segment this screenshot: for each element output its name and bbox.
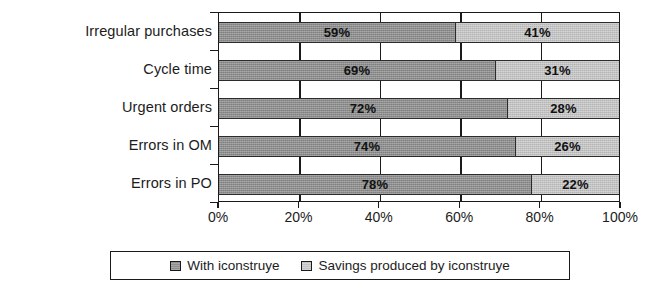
bar-segment-savings: 41%: [455, 22, 619, 43]
x-axis-tick: [217, 202, 218, 208]
category-label: Cycle time: [8, 61, 212, 77]
bar-segment-savings: 28%: [507, 98, 619, 119]
x-axis-tick-label: 0%: [208, 209, 228, 225]
x-axis-tick-label: 100%: [602, 209, 638, 225]
bar-segment-with-iconstruye: 78%: [219, 174, 531, 195]
category-label: Urgent orders: [8, 99, 212, 115]
legend-label: With iconstruye: [187, 258, 279, 273]
x-axis-tick-label: 60%: [445, 209, 473, 225]
bar-value-label: 26%: [554, 140, 581, 153]
x-axis-tick: [378, 202, 379, 208]
plot-area: 59%41%69%31%72%28%74%26%78%22%: [218, 12, 620, 202]
legend-swatch-with-iconstruye: [170, 261, 181, 271]
y-axis-tick: [210, 126, 218, 127]
x-axis-tick-label: 40%: [365, 209, 393, 225]
bar-value-label: 31%: [544, 64, 571, 77]
bar-row: 74%26%: [219, 136, 619, 157]
chart-legend: With iconstruyeSavings produced by icons…: [110, 251, 570, 280]
bar-value-label: 72%: [350, 102, 377, 115]
category-axis-labels: Irregular purchasesCycle timeUrgent orde…: [8, 12, 216, 202]
x-axis-tick-label: 80%: [526, 209, 554, 225]
category-label: Irregular purchases: [8, 23, 212, 39]
y-axis-tick: [210, 12, 218, 13]
bar-value-label: 41%: [524, 26, 551, 39]
bar-value-label: 22%: [562, 178, 589, 191]
category-label: Errors in OM: [8, 137, 212, 153]
bar-row: 78%22%: [219, 174, 619, 195]
bar-segment-savings: 31%: [495, 60, 619, 81]
bar-value-label: 74%: [354, 140, 381, 153]
bar-segment-with-iconstruye: 72%: [219, 98, 507, 119]
bar-row: 72%28%: [219, 98, 619, 119]
bar-segment-savings: 26%: [515, 136, 619, 157]
stacked-bar-chart: Irregular purchasesCycle timeUrgent orde…: [0, 0, 672, 294]
bar-row: 69%31%: [219, 60, 619, 81]
legend-item: Savings produced by iconstruye: [301, 258, 509, 273]
bar-segment-savings: 22%: [531, 174, 619, 195]
legend-item: With iconstruye: [170, 258, 279, 273]
y-axis-tick: [210, 164, 218, 165]
y-axis-tick: [210, 88, 218, 89]
legend-swatch-savings: [301, 261, 312, 271]
bar-value-label: 28%: [550, 102, 577, 115]
x-axis-tick: [539, 202, 540, 208]
legend-label: Savings produced by iconstruye: [318, 258, 509, 273]
category-label: Errors in PO: [8, 175, 212, 191]
x-axis-tick: [298, 202, 299, 208]
bar-value-label: 78%: [362, 178, 389, 191]
bar-value-label: 59%: [324, 26, 351, 39]
x-axis-tick-label: 20%: [284, 209, 312, 225]
x-axis-tick: [459, 202, 460, 208]
bar-value-label: 69%: [344, 64, 371, 77]
bar-segment-with-iconstruye: 74%: [219, 136, 515, 157]
bar-row: 59%41%: [219, 22, 619, 43]
bar-segment-with-iconstruye: 69%: [219, 60, 495, 81]
x-axis-line: [218, 201, 620, 202]
bar-segment-with-iconstruye: 59%: [219, 22, 455, 43]
x-axis-tick: [619, 202, 620, 208]
y-axis-tick: [210, 50, 218, 51]
